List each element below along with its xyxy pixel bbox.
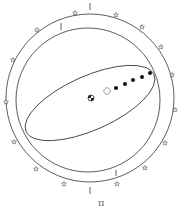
star-icon (143, 166, 148, 171)
celestial-bodies (88, 71, 152, 101)
star-icon (73, 11, 78, 16)
star-icon (163, 141, 168, 146)
crescent-moon-icon (98, 94, 102, 101)
star-icon (34, 167, 39, 172)
planet-dot (131, 78, 135, 82)
figure-caption: II (98, 199, 104, 208)
star-icon (114, 13, 119, 18)
earth-icon (88, 95, 94, 101)
star-icon (4, 100, 9, 105)
star-icon (12, 140, 17, 145)
planet-dot (148, 71, 152, 75)
inner-ring (16, 28, 160, 172)
star-icon (159, 45, 164, 50)
planet-dot (114, 86, 118, 90)
star-icon (62, 182, 67, 187)
ecliptic-ellipse (15, 50, 165, 156)
star-icon (115, 182, 120, 187)
sun-icon (104, 88, 110, 94)
star-icon (140, 25, 145, 30)
planet-dot (140, 75, 144, 79)
planet-dot (123, 82, 127, 86)
armillary-diagram (0, 0, 180, 209)
